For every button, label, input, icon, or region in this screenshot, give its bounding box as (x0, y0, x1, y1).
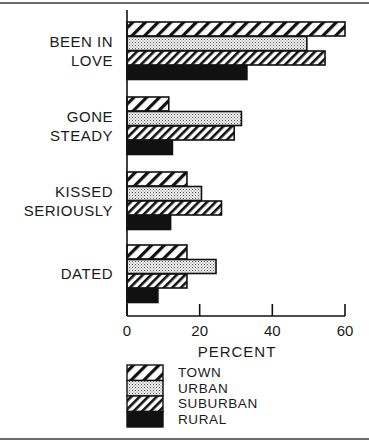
bar-rural (127, 141, 172, 155)
bar-town (127, 97, 169, 111)
category-label: SERIOUSLY (24, 202, 113, 219)
category-label: LOVE (71, 52, 113, 69)
category-label: BEEN IN (49, 33, 113, 50)
category-labels: BEEN INLOVEGONESTEADYKISSEDSERIOUSLYDATE… (24, 33, 113, 283)
bar-urban (127, 37, 307, 51)
x-tick-label: 20 (191, 322, 208, 339)
category-label: DATED (61, 265, 113, 282)
bar-town (127, 172, 187, 186)
category-label: STEADY (50, 127, 113, 144)
bar-urban (127, 260, 216, 274)
bar-suburban (127, 274, 187, 288)
bar-chart: BEEN INLOVEGONESTEADYKISSEDSERIOUSLYDATE… (0, 0, 369, 447)
x-tick-label: 0 (123, 322, 131, 339)
x-axis-title: PERCENT (198, 343, 277, 360)
legend-swatch-rural (127, 412, 163, 428)
bar-urban (127, 187, 201, 201)
legend: TOWNURBANSUBURBANRURAL (127, 365, 258, 427)
bar-rural (127, 216, 171, 230)
legend-swatch-suburban (127, 396, 163, 412)
bar-town (127, 22, 345, 36)
bar-suburban (127, 201, 221, 215)
bar-suburban (127, 126, 234, 140)
legend-label-suburban: SUBURBAN (178, 396, 258, 411)
x-tick-label: 60 (337, 322, 354, 339)
bar-rural (127, 66, 247, 80)
bar-suburban (127, 51, 325, 65)
category-label: KISSED (55, 183, 113, 200)
category-label: GONE (67, 108, 113, 125)
legend-label-urban: URBAN (178, 381, 228, 396)
bar-town (127, 245, 187, 259)
bars (127, 22, 345, 303)
legend-label-rural: RURAL (178, 412, 227, 427)
bar-urban (127, 112, 241, 126)
bar-rural (127, 289, 158, 303)
legend-label-town: TOWN (178, 365, 221, 380)
x-tick-label: 40 (264, 322, 281, 339)
legend-swatch-urban (127, 381, 163, 397)
legend-swatch-town (127, 365, 163, 381)
